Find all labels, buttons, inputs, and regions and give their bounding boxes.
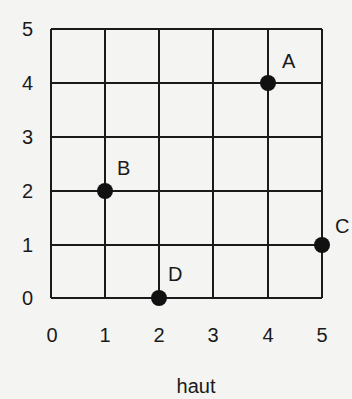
y-tick-labels: 0 1 2 3 4 5 bbox=[22, 18, 33, 309]
point-d-label: D bbox=[168, 263, 182, 285]
y-tick-2: 2 bbox=[22, 180, 33, 202]
point-labels: A B C D bbox=[117, 50, 349, 285]
x-tick-4: 4 bbox=[262, 324, 273, 346]
point-c-marker bbox=[314, 237, 330, 253]
x-axis-label: haut bbox=[177, 375, 216, 397]
y-tick-4: 4 bbox=[22, 72, 33, 94]
y-tick-1: 1 bbox=[22, 234, 33, 256]
x-tick-1: 1 bbox=[99, 324, 110, 346]
x-tick-2: 2 bbox=[153, 324, 164, 346]
point-a-marker bbox=[260, 75, 276, 91]
x-tick-3: 3 bbox=[207, 324, 218, 346]
y-tick-5: 5 bbox=[22, 18, 33, 40]
x-tick-labels: 0 1 2 3 4 5 bbox=[46, 324, 327, 346]
point-b-label: B bbox=[117, 157, 130, 179]
point-b-marker bbox=[97, 183, 113, 199]
point-a-label: A bbox=[282, 50, 296, 72]
x-tick-5: 5 bbox=[316, 324, 327, 346]
y-tick-3: 3 bbox=[22, 126, 33, 148]
point-d-marker bbox=[151, 290, 167, 306]
point-c-label: C bbox=[335, 215, 349, 237]
y-tick-0: 0 bbox=[22, 287, 33, 309]
x-tick-0: 0 bbox=[46, 324, 57, 346]
coordinate-grid-diagram: 0 1 2 3 4 5 0 1 2 3 4 5 haut A B C D bbox=[0, 0, 352, 399]
